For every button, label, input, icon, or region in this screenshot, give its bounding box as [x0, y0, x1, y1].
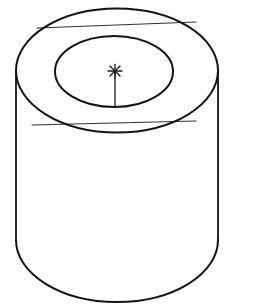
centerlines-group [32, 22, 196, 125]
hollow-cylinder-figure: Isometric hollow cylinder (tube) Line dr… [0, 0, 255, 306]
center-mark-group [108, 65, 122, 107]
cylinder-side-wall-fill [16, 71, 218, 303]
technical-drawing-canvas: Isometric hollow cylinder (tube) Line dr… [0, 0, 255, 306]
centerline-major-axis [37, 22, 196, 28]
cylinder-body-group [16, 71, 218, 303]
